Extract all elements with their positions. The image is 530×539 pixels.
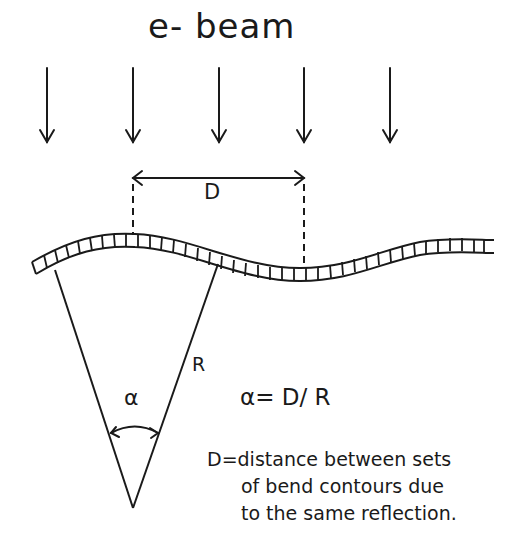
definition-line-1: D=distance between sets bbox=[207, 446, 457, 473]
definition-line-2: of bend contours due bbox=[207, 473, 457, 500]
arrow-down-icon bbox=[383, 68, 397, 142]
angle-arc bbox=[111, 427, 158, 439]
radius-label: R bbox=[192, 353, 205, 375]
arrow-down-icon bbox=[40, 68, 54, 142]
bent-crystal-foil bbox=[32, 234, 494, 281]
definition-line-3: to the same reflection. bbox=[207, 500, 457, 527]
arrow-down-icon bbox=[297, 68, 311, 142]
distance-label: D bbox=[204, 180, 220, 204]
beam-title: e- beam bbox=[148, 6, 295, 46]
arrow-down-icon bbox=[212, 68, 226, 142]
equation: α= D/ R bbox=[240, 384, 331, 410]
angle-label: α bbox=[124, 385, 139, 410]
beam-arrows bbox=[40, 68, 397, 142]
arrow-down-icon bbox=[126, 68, 140, 142]
definition-text: D=distance between sets of bend contours… bbox=[207, 446, 457, 527]
